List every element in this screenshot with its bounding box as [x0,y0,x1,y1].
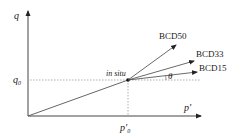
initial-stress-path [28,80,128,116]
in-situ-label: in situ [106,69,126,78]
q0-label: q0 [13,74,21,86]
bcd33-path [128,61,194,80]
stress-path-diagram: q p' q0 p'0 in situ θ BCD50 BCD33 BCD15 [0,0,245,139]
bcd15-path [128,72,197,80]
theta-label: θ [168,71,173,81]
p0-label: p'0 [119,122,130,134]
bcd50-label: BCD50 [159,31,187,41]
bcd15-label: BCD15 [199,63,227,73]
x-axis-label: p' [183,102,192,113]
y-axis-label: q [14,10,19,21]
bcd33-label: BCD33 [196,49,224,59]
